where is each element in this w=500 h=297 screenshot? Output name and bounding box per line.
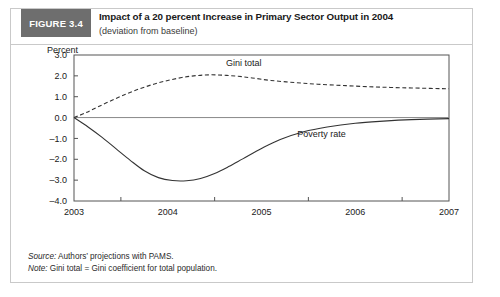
source-label: Source: [28,252,56,261]
series-label-poverty-rate: Poverty rate [297,129,346,139]
x-axis-tick-labels: 20032004200520062007 [64,207,459,217]
line-chart: 3.02.01.00.0–1.0–2.0–3.0–4.0 20032004200… [11,45,472,245]
svg-text:2007: 2007 [439,207,459,217]
figure-title: Impact of a 20 percent Increase in Prima… [99,10,464,23]
source-text: Authors’ projections with PAMS. [56,252,173,261]
svg-text:2003: 2003 [64,207,84,217]
svg-text:0.0: 0.0 [54,113,67,123]
svg-text:2005: 2005 [251,207,271,217]
note-line: Note: Gini total = Gini coefficient for … [28,263,217,275]
svg-text:–4.0: –4.0 [49,196,67,206]
y-axis-tick-labels: 3.02.01.00.0–1.0–2.0–3.0–4.0 [49,50,67,206]
plot-axes-frame [74,55,449,201]
x-axis-ticks [121,197,402,201]
note-label: Note: [28,264,48,273]
figure-number-badge: FIGURE 3.4 [21,9,91,37]
series-line-poverty-rate [74,118,449,181]
figure-frame: FIGURE 3.4 Impact of a 20 percent Increa… [10,8,473,283]
svg-text:2006: 2006 [345,207,365,217]
series-line-gini-total [74,75,449,118]
chart-plot-region: 3.02.01.00.0–1.0–2.0–3.0–4.0 20032004200… [11,45,472,284]
svg-text:–2.0: –2.0 [49,154,67,164]
svg-text:2.0: 2.0 [54,71,67,81]
figure-footnotes: Source: Authors’ projections with PAMS. … [28,251,217,274]
svg-text:–3.0: –3.0 [49,175,67,185]
figure-header: FIGURE 3.4 Impact of a 20 percent Increa… [11,9,472,45]
figure-title-block: Impact of a 20 percent Increase in Prima… [99,10,464,37]
y-axis-ticks [74,76,78,180]
svg-text:2004: 2004 [158,207,178,217]
figure-subtitle: (deviation from baseline) [99,25,464,37]
svg-text:1.0: 1.0 [54,92,67,102]
source-line: Source: Authors’ projections with PAMS. [28,251,217,263]
series-label-gini-total: Gini total [226,58,262,68]
data-series-group [74,75,449,181]
svg-text:–1.0: –1.0 [49,134,67,144]
y-axis-title: Percent [47,45,79,55]
note-text: Gini total = Gini coefficient for total … [48,264,217,273]
